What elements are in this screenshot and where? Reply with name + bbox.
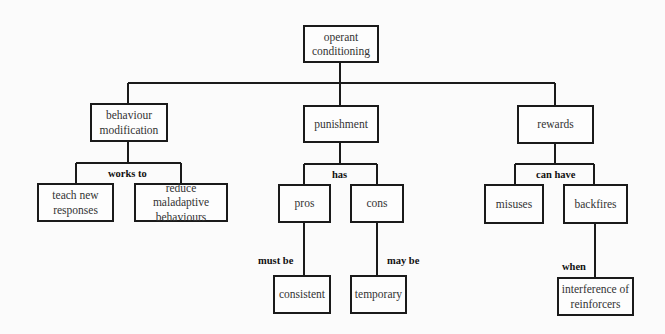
node-label: misuses [496,197,532,211]
node-behaviour-modification: behaviour modification [90,103,168,142]
node-label: rewards [537,117,573,131]
link-label-works-to: works to [108,168,147,179]
node-interference-of-reinforcers: interference of reinforcers [557,277,634,316]
node-pros: pros [278,184,331,223]
node-label: responses [53,203,98,217]
node-cons: cons [350,184,404,223]
node-label: temporary [355,287,402,301]
link-label-when: when [562,261,586,272]
node-label: punishment [314,117,368,131]
node-misuses: misuses [484,184,544,224]
node-label: operant [324,30,358,44]
link-label-may-be: may be [387,255,419,266]
node-label: cons [366,196,387,210]
node-label: pros [295,196,315,210]
node-label: backfires [574,197,616,211]
node-temporary: temporary [350,275,407,314]
node-label: reduce maladaptive [138,181,224,210]
node-label: reinforcers [571,297,621,311]
link-label-must-be: must be [258,255,293,266]
node-label: teach new [52,188,98,202]
node-operant-conditioning: operant conditioning [303,25,379,63]
node-label: modification [100,123,159,137]
node-label: behaviours [156,210,206,224]
node-label: conditioning [312,44,370,58]
node-consistent: consistent [273,275,331,314]
link-label-can-have: can have [536,169,575,180]
node-backfires: backfires [563,184,628,224]
node-label: behaviour [106,108,152,122]
node-label: consistent [279,287,325,301]
node-label: interference of [562,282,629,296]
node-reduce-maladaptive-behaviours: reduce maladaptive behaviours [134,183,228,222]
node-punishment: punishment [303,105,379,143]
link-label-has: has [332,169,347,180]
node-rewards: rewards [517,105,594,144]
node-teach-new-responses: teach new responses [37,183,114,222]
